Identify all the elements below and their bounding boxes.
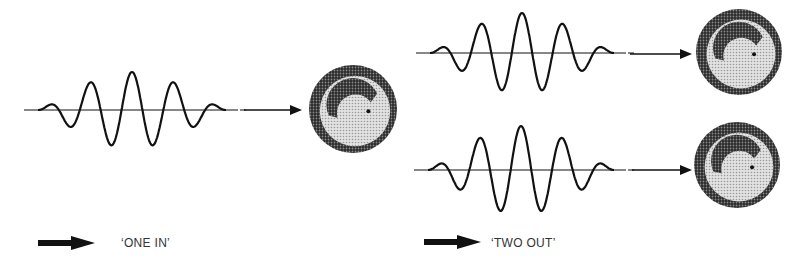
wave-two-out-bottom <box>428 126 614 211</box>
wave-two-out-top <box>430 13 614 90</box>
legend-two-out-label: ‘TWO OUT’ <box>491 236 556 250</box>
wave-one-in <box>38 72 226 145</box>
dish-one-in-spot <box>366 109 370 113</box>
legend-arrow-one-in-icon-head <box>71 236 95 250</box>
arrow-two-out-top-head <box>680 49 692 59</box>
arrow-two-out-bottom-head <box>680 165 692 175</box>
legend-arrow-two-out-icon-head <box>457 235 481 249</box>
dish-two-out-top-spot <box>752 52 756 56</box>
dish-two-out-bottom-spot <box>750 165 754 169</box>
legend-one-in-label: ‘ONE IN’ <box>121 236 170 250</box>
arrow-one-in-head <box>290 105 302 115</box>
diagram-canvas <box>0 0 810 266</box>
